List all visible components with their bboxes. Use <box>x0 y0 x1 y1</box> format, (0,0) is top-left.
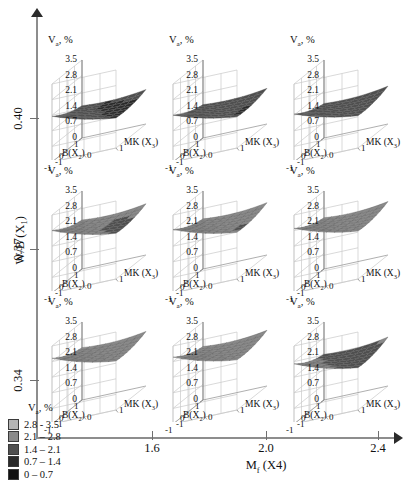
panel-b-axis-name: B(X2) <box>304 410 327 422</box>
legend-rows: 2.8 - 3.52.1 – 2.81.4 – 2.10.7 – 1.40 – … <box>8 418 61 481</box>
mf-tick-0 <box>152 431 153 440</box>
panel-mk-tick-label: 1 <box>361 143 366 153</box>
panel-z-tick-label: 0.7 <box>178 378 198 388</box>
panel-mk-tick-label: 0 <box>208 412 213 422</box>
panel-z-tick-label: 0.7 <box>57 116 77 126</box>
legend-label: 2.1 – 2.8 <box>24 431 61 442</box>
panel-z-tick-label: 2.1 <box>299 347 319 357</box>
mf-tick-label-1: 2.0 <box>243 441 289 456</box>
panel-mk-axis-name: MK (X3) <box>124 268 158 280</box>
panel-z-title-text: V <box>48 165 56 176</box>
mf-tick-label-2: 2.4 <box>355 441 401 456</box>
panel-z-tick-label: 3.5 <box>178 54 198 64</box>
panel-z-tick-label: 2.8 <box>57 201 77 211</box>
panel-z-tick-label: 2.8 <box>178 332 198 342</box>
panel-z-tick-label: 2.8 <box>57 70 77 80</box>
panel-mk-axis-name: MK (X3) <box>124 137 158 149</box>
legend-item: 2.8 - 3.5 <box>8 418 61 431</box>
panel-b-axis-name: B(X2) <box>183 148 206 160</box>
panel-z-title: Va, % <box>48 34 73 48</box>
panel-mk-axis-name: MK (X3) <box>245 268 279 280</box>
panel-z-title-text: V <box>169 165 177 176</box>
panel-z-title-tail: , % <box>301 165 315 176</box>
panel-z-title-tail: , % <box>180 296 194 307</box>
wb-axis-line <box>36 14 38 438</box>
panel-b-tick-label: -1 <box>165 425 173 435</box>
surface-panel: Va, %3.52.82.11.40.7010-110-1B(X2)MK (X3… <box>288 34 412 160</box>
panel-z-tick-label: 1.4 <box>299 363 319 373</box>
mf-axis-label-tail: (X4) <box>260 458 287 472</box>
legend-swatch <box>8 431 19 442</box>
surface-panel: Va, %3.52.82.11.40.7010-110-1B(X2)MK (X3… <box>46 296 170 422</box>
legend-item: 2.1 – 2.8 <box>8 431 61 444</box>
panel-mk-tick-label: 0 <box>87 281 92 291</box>
legend-item: 0 – 0.7 <box>8 468 61 481</box>
panel-b-axis-name: B(X2) <box>183 279 206 291</box>
legend-item: 0.7 – 1.4 <box>8 456 61 469</box>
panel-mk-tick-label: 1 <box>361 274 366 284</box>
surface-panel: Va, %3.52.82.11.40.7010-110-1B(X2)MK (X3… <box>167 296 291 422</box>
legend-swatch <box>8 444 19 455</box>
panel-mk-tick-label: 0 <box>329 412 334 422</box>
panel-mk-tick-label: 0 <box>87 412 92 422</box>
panel-z-tick-label: 1.4 <box>178 232 198 242</box>
panel-z-tick-label: 2.1 <box>57 347 77 357</box>
panel-mk-tick-label: 1 <box>240 405 245 415</box>
panel-z-tick-label: 2.1 <box>178 216 198 226</box>
panel-mk-tick-label: 0 <box>329 150 334 160</box>
panel-z-tick-label: 2.8 <box>299 332 319 342</box>
panel-z-tick-label: 2.1 <box>299 216 319 226</box>
panel-mk-tick-label: 1 <box>119 143 124 153</box>
panel-z-tick-label: 1.4 <box>57 232 77 242</box>
panel-z-tick-label: 2.8 <box>178 201 198 211</box>
panel-z-tick-label: 0.7 <box>57 247 77 257</box>
wb-axis-arrow <box>31 8 43 17</box>
panel-mk-tick-label: 0 <box>208 281 213 291</box>
panel-z-tick-label: 3.5 <box>178 185 198 195</box>
panel-z-title: Va, % <box>169 34 194 48</box>
panel-mk-tick-label: 0 <box>208 150 213 160</box>
panel-z-title-tail: , % <box>59 34 73 45</box>
panel-mk-axis-name: MK (X3) <box>366 268 400 280</box>
surface-panel: Va, %3.52.82.11.40.7010-110-1B(X2)MK (X3… <box>46 34 170 160</box>
panel-z-tick-label: 1.4 <box>299 101 319 111</box>
panel-z-tick-label: 3.5 <box>299 54 319 64</box>
panel-z-title-text: V <box>169 296 177 307</box>
panel-z-tick-label: 2.1 <box>299 85 319 95</box>
panel-z-tick-label: 1.4 <box>57 101 77 111</box>
panel-z-title-text: V <box>48 34 56 45</box>
mf-tick-2 <box>378 431 379 440</box>
legend-swatch <box>8 469 19 480</box>
panel-z-tick-label: 2.8 <box>299 201 319 211</box>
panel-z-tick-label: 0.7 <box>299 378 319 388</box>
panel-z-tick-label: 2.1 <box>178 85 198 95</box>
wb-tick-1 <box>30 249 39 250</box>
panel-z-title: Va, % <box>169 296 194 310</box>
panel-z-tick-label: 0.7 <box>178 247 198 257</box>
surface-panel: Va, %3.52.82.11.40.7010-110-1B(X2)MK (X3… <box>46 165 170 291</box>
panel-z-title-text: V <box>290 296 298 307</box>
wb-tick-label-0: 0.40 <box>11 97 26 141</box>
legend: Va, % 2.8 - 3.52.1 – 2.81.4 – 2.10.7 – 1… <box>8 402 61 481</box>
panel-z-title-tail: , % <box>59 296 73 307</box>
legend-title: Va, % <box>28 402 61 416</box>
legend-label: 1.4 – 2.1 <box>24 444 61 455</box>
panel-z-title-tail: , % <box>59 165 73 176</box>
panel-z-tick-label: 1.4 <box>178 363 198 373</box>
mf-axis-label-text: M <box>246 458 257 472</box>
wb-tick-label-1: 0.37 <box>11 228 26 272</box>
panel-b-axis-name: B(X2) <box>62 410 85 422</box>
panel-b-tick-label: -1 <box>286 425 294 435</box>
panel-z-title-text: V <box>290 34 298 45</box>
wb-tick-2 <box>30 380 39 381</box>
panel-z-tick-label: 0.7 <box>299 247 319 257</box>
panel-z-title-text: V <box>290 165 298 176</box>
panel-z-title-tail: , % <box>180 165 194 176</box>
panel-z-title: Va, % <box>290 165 315 179</box>
panel-z-tick-label: 3.5 <box>57 185 77 195</box>
surface-panel: Va, %3.52.82.11.40.7010-110-1B(X2)MK (X3… <box>288 296 412 422</box>
legend-label: 0.7 – 1.4 <box>24 456 61 467</box>
panel-z-title: Va, % <box>290 296 315 310</box>
wb-axis-label-sub: 1 <box>19 220 29 224</box>
panel-z-tick-label: 2.8 <box>178 70 198 80</box>
